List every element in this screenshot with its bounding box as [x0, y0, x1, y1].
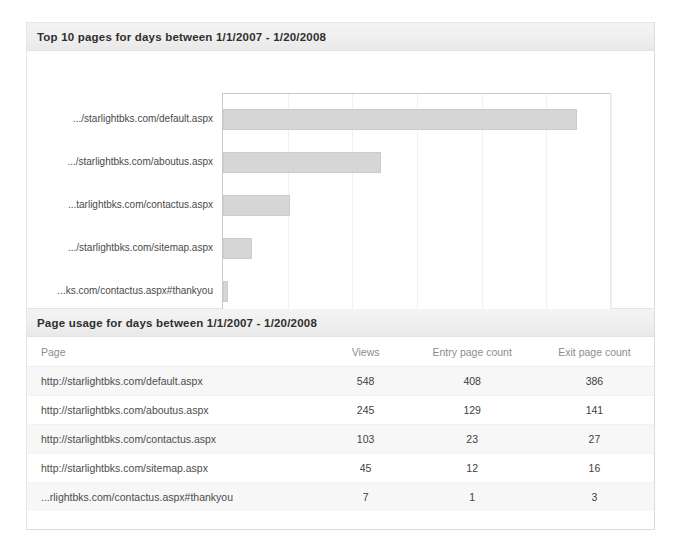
- bar-row: [223, 270, 610, 313]
- chart-y-label: ...tarlightbks.com/contactus.aspx: [68, 183, 213, 226]
- chart-section: Top 10 pages for days between 1/1/2007 -…: [27, 23, 654, 308]
- chart-section-header: Top 10 pages for days between 1/1/2007 -…: [27, 23, 654, 51]
- column-header-entry-page-count[interactable]: Entry page count: [409, 337, 534, 367]
- chart-bars: [223, 94, 610, 309]
- cell-page-url[interactable]: ...rlightbks.com/contactus.aspx#thankyou: [27, 483, 322, 512]
- table-section-header: Page usage for days between 1/1/2007 - 1…: [27, 309, 654, 337]
- column-header-page[interactable]: Page: [27, 337, 322, 367]
- page-usage-table: Page Views Entry page count Exit page co…: [27, 337, 654, 511]
- table-row[interactable]: ...rlightbks.com/contactus.aspx#thankyou…: [27, 483, 654, 512]
- chart-y-label: .../starlightbks.com/default.aspx: [73, 97, 213, 140]
- cell-page-url[interactable]: http://starlightbks.com/default.aspx: [27, 367, 322, 396]
- cell-exit-page-count: 27: [535, 425, 654, 454]
- cell-views: 548: [322, 367, 410, 396]
- chart-y-label: ...ks.com/contactus.aspx#thankyou: [57, 269, 213, 312]
- cell-page-url[interactable]: http://starlightbks.com/sitemap.aspx: [27, 454, 322, 483]
- bar-row: [223, 227, 610, 270]
- report-panel: Top 10 pages for days between 1/1/2007 -…: [26, 22, 655, 530]
- cell-views: 245: [322, 396, 410, 425]
- cell-exit-page-count: 16: [535, 454, 654, 483]
- chart-bar[interactable]: [223, 109, 577, 130]
- cell-exit-page-count: 386: [535, 367, 654, 396]
- chart-plot-area: [222, 93, 611, 310]
- gridline-600: [611, 94, 612, 309]
- cell-entry-page-count: 12: [409, 454, 534, 483]
- table-section-title: Page usage for days between 1/1/2007 - 1…: [27, 317, 317, 329]
- bar-row: [223, 184, 610, 227]
- cell-views: 7: [322, 483, 410, 512]
- chart-y-label: .../starlightbks.com/aboutus.aspx: [67, 140, 213, 183]
- table-row[interactable]: http://starlightbks.com/default.aspx5484…: [27, 367, 654, 396]
- table-row[interactable]: http://starlightbks.com/aboutus.aspx2451…: [27, 396, 654, 425]
- cell-views: 103: [322, 425, 410, 454]
- table-section: Page usage for days between 1/1/2007 - 1…: [27, 309, 654, 511]
- cell-entry-page-count: 1: [409, 483, 534, 512]
- bar-row: [223, 98, 610, 141]
- cell-entry-page-count: 408: [409, 367, 534, 396]
- table-body: http://starlightbks.com/default.aspx5484…: [27, 367, 654, 512]
- table-row[interactable]: http://starlightbks.com/sitemap.aspx4512…: [27, 454, 654, 483]
- chart-section-title: Top 10 pages for days between 1/1/2007 -…: [27, 31, 326, 43]
- cell-page-url[interactable]: http://starlightbks.com/contactus.aspx: [27, 425, 322, 454]
- chart-y-axis-labels: .../starlightbks.com/default.aspx.../sta…: [27, 93, 217, 310]
- chart-bar[interactable]: [223, 195, 290, 216]
- table-header-row: Page Views Entry page count Exit page co…: [27, 337, 654, 367]
- column-header-views[interactable]: Views: [322, 337, 410, 367]
- chart-bar[interactable]: [223, 281, 228, 302]
- bar-row: [223, 141, 610, 184]
- chart-bar[interactable]: [223, 238, 252, 259]
- chart-y-label: .../starlightbks.com/sitemap.aspx: [68, 226, 213, 269]
- cell-entry-page-count: 129: [409, 396, 534, 425]
- table-row[interactable]: http://starlightbks.com/contactus.aspx10…: [27, 425, 654, 454]
- cell-exit-page-count: 141: [535, 396, 654, 425]
- column-header-exit-page-count[interactable]: Exit page count: [535, 337, 654, 367]
- cell-views: 45: [322, 454, 410, 483]
- cell-page-url[interactable]: http://starlightbks.com/aboutus.aspx: [27, 396, 322, 425]
- bar-chart: .../starlightbks.com/default.aspx.../sta…: [27, 51, 654, 307]
- cell-exit-page-count: 3: [535, 483, 654, 512]
- chart-bar[interactable]: [223, 152, 381, 173]
- cell-entry-page-count: 23: [409, 425, 534, 454]
